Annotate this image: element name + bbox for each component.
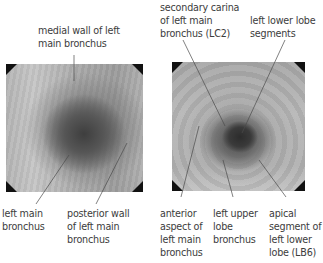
label-posterior-wall-left-main-bronchus: posterior wall of left main bronchus bbox=[67, 207, 129, 246]
label-left-main-bronchus: left main bronchus bbox=[2, 207, 45, 233]
corner-mask bbox=[6, 64, 17, 75]
corner-mask bbox=[294, 180, 305, 191]
corner-mask bbox=[132, 181, 143, 192]
right-bronchoscopy-image bbox=[172, 62, 305, 191]
corner-mask bbox=[132, 64, 143, 75]
label-anterior-aspect-left-main-bronchus: anterior aspect of left main bronchus bbox=[160, 207, 203, 259]
corner-mask bbox=[6, 181, 17, 192]
left-bronchoscopy-image bbox=[6, 64, 143, 192]
label-secondary-carina-lc2: secondary carina of left main bronchus (… bbox=[160, 1, 239, 40]
label-left-lower-lobe-segments: left lower lobe segments bbox=[250, 14, 315, 40]
label-left-upper-lobe-bronchus: left upper lobe bronchus bbox=[213, 207, 258, 246]
corner-mask bbox=[172, 62, 183, 73]
label-apical-segment-lb6: apical segment of left lower lobe (LB6) bbox=[269, 207, 321, 259]
corner-mask bbox=[294, 62, 305, 73]
label-medial-wall-left-main-bronchus: medial wall of left main bronchus bbox=[38, 24, 120, 50]
corner-mask bbox=[172, 180, 183, 191]
